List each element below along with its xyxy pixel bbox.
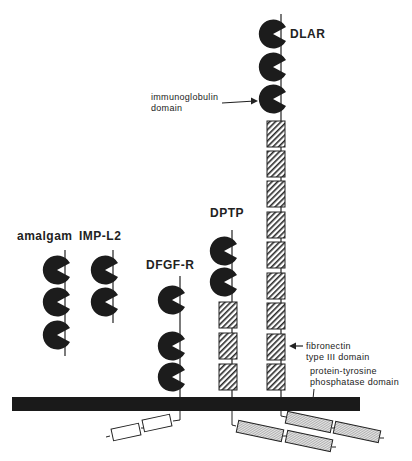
fibronectin-domain-icon [219,364,237,390]
annotation-line: fibronectin [306,341,370,352]
protein-dfgf-r [106,276,185,441]
annotation-line: protein-tyrosine [310,366,399,377]
annotation-line: phosphatase domain [310,377,399,388]
ig-domain-icon [259,53,286,82]
fibronectin-domain-icon [267,242,285,268]
annotation-line: immunoglobulin [151,92,218,103]
phosphatase-domain-icon [333,421,380,442]
protein-imp-l2 [91,250,118,323]
fibronectin-domain-icon [219,333,237,359]
fn-arrow-icon [289,343,303,350]
annotation-fibronectin-domain: fibronectin type III domain [306,341,370,363]
fibronectin-domain-icon [267,364,285,390]
fibronectin-domain-icon [267,273,285,299]
phosphatase-domain-icon [236,420,283,441]
fibronectin-domain-icon [267,181,285,207]
cell-membrane [12,397,360,411]
label-dfgf-r: DFGF-R [146,258,194,272]
phosphatase-domain-icon [285,411,332,432]
kinase-domain-icon [111,423,141,441]
label-dptp: DPTP [210,206,244,220]
protein-amalgam [43,250,70,356]
label-amalgam: amalgam [17,229,73,243]
fibronectin-domain-icon [219,302,237,328]
fibronectin-domain-icon [267,334,285,360]
annotation-line: type III domain [306,352,370,363]
ig-domain-icon [210,237,237,266]
annotation-ig-domain: immunoglobulin domain [151,92,218,114]
label-imp-l2: IMP-L2 [79,229,121,243]
ig-domain-icon [210,268,237,297]
ig-domain-icon [91,288,118,317]
annotation-ptp-domain: protein-tyrosine phosphatase domain [310,366,399,388]
fibronectin-domain-icon [267,303,285,329]
ig-arrow-icon [222,98,258,105]
kinase-domain-icon [142,414,172,432]
ig-domain-icon [91,256,118,285]
ig-domain-icon [43,288,70,317]
ig-domain-icon [43,321,70,350]
phosphatase-domain-icon [285,430,332,451]
ig-domain-icon [259,20,286,49]
fibronectin-domain-icon [267,121,285,147]
ig-domain-icon [158,332,185,361]
ig-domain-icon [158,363,185,392]
ig-domain-icon [43,256,70,285]
fibronectin-domain-icon [267,212,285,238]
ig-domain-icon [259,85,286,114]
ig-domain-icon [158,286,185,315]
annotation-line: domain [151,103,218,114]
label-dlar: DLAR [290,27,325,41]
fibronectin-domain-icon [267,151,285,177]
